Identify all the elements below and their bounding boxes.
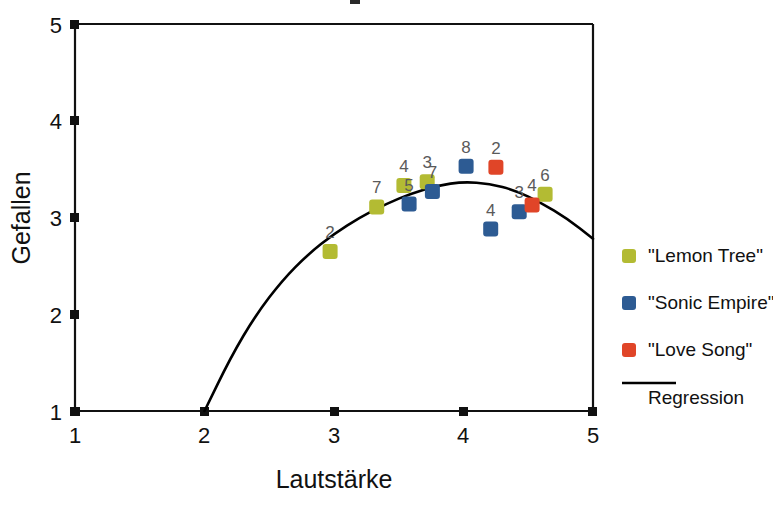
y-tick-label: 1 <box>50 400 62 425</box>
y-tick-label: 2 <box>50 303 62 328</box>
cropped-title-fragment <box>350 0 360 4</box>
legend-swatch-love-song <box>622 343 636 357</box>
data-point-label: 7 <box>428 163 437 182</box>
legend-label-sonic-empire: "Sonic Empire" <box>648 292 773 313</box>
data-point-label: 8 <box>461 138 470 157</box>
data-point-marker <box>483 222 498 237</box>
legend-swatch-sonic-empire <box>622 296 636 310</box>
x-tick-label: 1 <box>69 423 81 448</box>
x-tick-label: 2 <box>198 423 210 448</box>
x-axis-tick-labels: 1 2 3 4 5 <box>69 423 599 448</box>
data-point-label: 4 <box>486 201 495 220</box>
data-point-label: 5 <box>404 176 413 195</box>
data-point-label: 4 <box>399 157 408 176</box>
x-tick-label: 3 <box>328 423 340 448</box>
data-point-marker <box>459 159 474 174</box>
data-point-label: 2 <box>491 139 500 158</box>
data-point-marker <box>538 187 553 202</box>
data-point-marker <box>369 199 384 214</box>
legend-swatch-lemon-tree <box>622 249 636 263</box>
x-tick-label: 5 <box>587 423 599 448</box>
x-tick-label: 4 <box>457 423 469 448</box>
data-point-label: 2 <box>325 223 334 242</box>
y-axis-tick-labels: 5 4 3 2 1 <box>50 13 62 425</box>
data-point-label: 3 <box>514 183 523 202</box>
data-point-label: 4 <box>527 176 536 195</box>
data-point-label: 7 <box>372 178 381 197</box>
legend-label-regression: Regression <box>648 387 744 408</box>
x-axis-title: Lautstärke <box>276 465 393 493</box>
data-point-marker <box>488 160 503 175</box>
regression-curve <box>205 182 594 411</box>
data-point-marker <box>425 184 440 199</box>
y-axis-title: Gefallen <box>7 171 35 264</box>
scatter-chart: 5 4 3 2 1 1 2 3 4 5 Lautstärke Gefallen … <box>0 0 773 506</box>
chart-legend: "Lemon Tree" "Sonic Empire" "Love Song" … <box>622 245 773 408</box>
data-point-marker <box>525 197 540 212</box>
legend-label-love-song: "Love Song" <box>648 339 752 360</box>
data-points-layer: 274365784324 <box>323 138 553 259</box>
y-tick-label: 4 <box>50 109 62 134</box>
data-point-marker <box>402 197 417 212</box>
data-point-marker <box>323 244 338 259</box>
data-point-label: 6 <box>540 166 549 185</box>
data-point-marker <box>512 204 527 219</box>
y-tick-label: 5 <box>50 13 62 38</box>
y-tick-label: 3 <box>50 206 62 231</box>
chart-canvas: 5 4 3 2 1 1 2 3 4 5 Lautstärke Gefallen … <box>0 0 773 506</box>
legend-label-lemon-tree: "Lemon Tree" <box>648 245 763 266</box>
